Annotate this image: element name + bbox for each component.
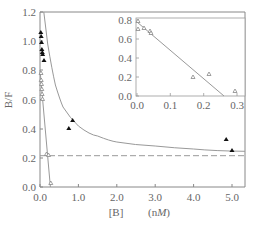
data-point xyxy=(40,92,44,96)
x-tick-label: 3.0 xyxy=(148,191,162,203)
main-y-tick-labels: 0.0 0.2 0.4 0.6 0.8 1.0 1.2 xyxy=(22,6,36,193)
inset-y-tick-labels: 0.0 0.2 0.4 0.6 0.8 xyxy=(118,14,132,102)
y-tick-label: 0.8 xyxy=(22,64,36,76)
data-point xyxy=(39,34,44,38)
inset-frame xyxy=(136,18,245,96)
chart-canvas: 0.0 0.2 0.4 0.6 0.8 1.0 1.2 0.0 1.0 2.0 … xyxy=(0,0,255,225)
data-point xyxy=(41,97,45,101)
inset-x-tick-label: 0.0 xyxy=(130,99,144,111)
x-axis-label: [B] xyxy=(109,206,124,218)
data-point xyxy=(224,137,229,141)
main-x-tick-labels: 0.0 1.0 2.0 3.0 4.0 5.0 xyxy=(33,191,239,203)
x-tick-label: 0.0 xyxy=(33,191,47,203)
y-tick-label: 0.6 xyxy=(22,94,36,106)
x-axis-unit: (nM) xyxy=(148,206,170,219)
y-tick-label: 1.2 xyxy=(22,6,36,18)
x-tick-label: 1.0 xyxy=(72,191,86,203)
inset-y-tick-label: 0.8 xyxy=(118,14,132,26)
y-tick-label: 0.2 xyxy=(22,152,36,164)
data-point xyxy=(66,126,71,130)
y-tick-label: 1.0 xyxy=(22,35,36,47)
inset-x-tick-label: 0.3 xyxy=(230,99,244,111)
x-tick-label: 2.0 xyxy=(110,191,124,203)
inset-x-tick-labels: 0.0 0.1 0.2 0.3 xyxy=(130,99,244,111)
open-triangle-series xyxy=(39,71,53,185)
inset-x-tick-label: 0.2 xyxy=(197,99,211,111)
x-tick-label: 5.0 xyxy=(225,191,239,203)
inset-y-tick-label: 0.6 xyxy=(118,33,132,45)
inset-y-tick-label: 0.2 xyxy=(118,71,132,83)
data-point xyxy=(230,148,235,152)
data-point xyxy=(42,58,47,62)
y-axis-label: B/F xyxy=(2,92,14,109)
data-point xyxy=(38,30,43,34)
y-tick-label: 0.4 xyxy=(22,123,36,135)
inset-plot: 0.0 0.2 0.4 0.6 0.8 0.0 0.1 0.2 0.3 xyxy=(118,14,245,111)
x-tick-label: 4.0 xyxy=(187,191,201,203)
inset-y-tick-label: 0.4 xyxy=(118,52,132,64)
inset-x-tick-label: 0.1 xyxy=(163,99,177,111)
data-point xyxy=(49,181,53,185)
